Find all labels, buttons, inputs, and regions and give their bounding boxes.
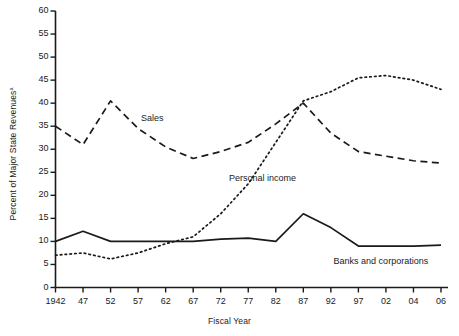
series-label-sales: Sales <box>141 113 164 123</box>
x-axis-tick-label: 06 <box>424 296 458 306</box>
series-line-banks-and-corporations <box>56 214 442 246</box>
y-axis-tick-label: 5 <box>27 258 49 268</box>
series-label-banks-and-corporations: Banks and corporations <box>334 256 429 266</box>
series-label-personal-income: Personal income <box>229 173 296 183</box>
chart-series-group <box>56 76 442 259</box>
series-line-personal-income <box>56 76 442 259</box>
series-line-sales <box>56 101 442 163</box>
y-axis-tick-label: 60 <box>27 5 49 15</box>
y-axis-tick-label: 0 <box>27 282 49 292</box>
y-axis-tick-label: 50 <box>27 51 49 61</box>
y-axis-tick-label: 20 <box>27 189 49 199</box>
y-axis-tick-label: 25 <box>27 166 49 176</box>
y-axis-tick-label: 10 <box>27 235 49 245</box>
y-axis-title: Percent of Major State Revenuesa <box>8 90 19 220</box>
y-axis-tick-label: 40 <box>27 97 49 107</box>
y-axis-tick-label: 45 <box>27 74 49 84</box>
chart-container: Percent of Major State Revenuesa Fiscal … <box>0 0 459 336</box>
chart-plot-area <box>0 0 459 336</box>
y-axis-tick-label: 35 <box>27 120 49 130</box>
x-axis-title: Fiscal Year <box>0 316 459 326</box>
y-axis-tick-label: 15 <box>27 212 49 222</box>
y-axis-tick-label: 30 <box>27 143 49 153</box>
y-axis-tick-label: 55 <box>27 28 49 38</box>
